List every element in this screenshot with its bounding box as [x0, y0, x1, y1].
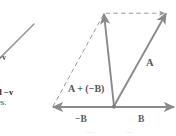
vector-resultant-arrow: [104, 14, 114, 106]
label-vector-a: A: [146, 57, 154, 68]
vector-diagram: A A + (−B) −B B: [0, 0, 176, 136]
origin-point: [112, 105, 116, 109]
label-axis-negative-b: −B: [75, 114, 87, 124]
vector-a-arrow: [114, 14, 166, 107]
figure-page: −v d −v es. ...... ....: [0, 0, 176, 136]
label-axis-positive-b: B: [138, 114, 145, 124]
label-resultant: A + (−B): [68, 83, 104, 95]
